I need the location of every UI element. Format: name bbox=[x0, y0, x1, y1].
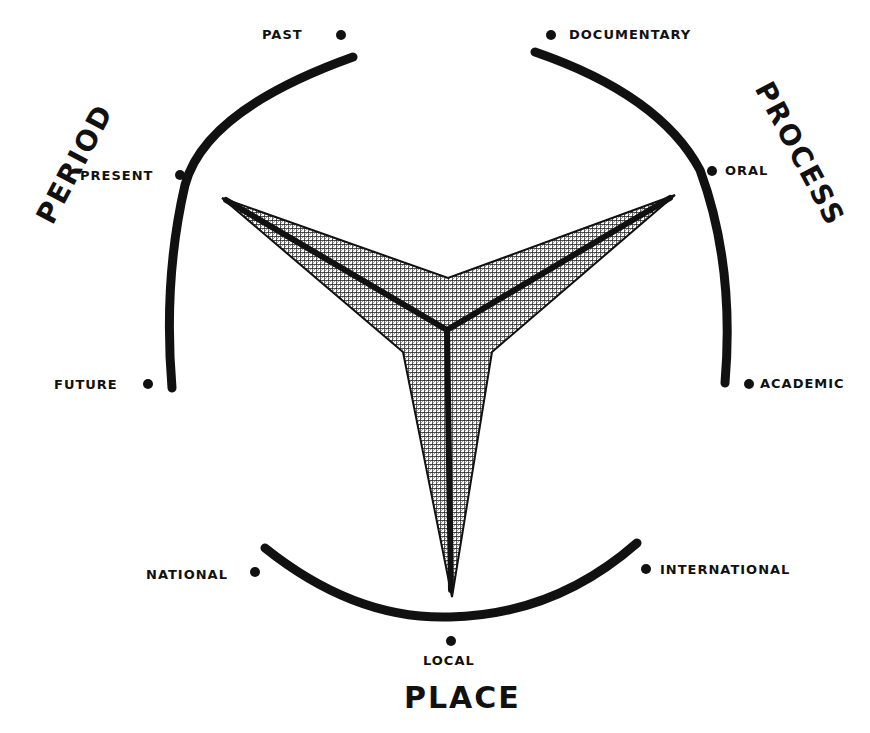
label-future: FUTURE bbox=[54, 378, 118, 391]
point-past-dot bbox=[336, 30, 346, 40]
point-documentary-dot bbox=[546, 30, 556, 40]
point-academic-dot bbox=[744, 379, 754, 389]
spoke-process bbox=[447, 198, 670, 330]
three-axis-diagram bbox=[0, 0, 870, 733]
point-oral-dot bbox=[707, 166, 717, 176]
point-international-dot bbox=[641, 564, 651, 574]
label-academic: ACADEMIC bbox=[760, 377, 845, 390]
label-local: LOCAL bbox=[423, 654, 475, 667]
label-present: PRESENT bbox=[80, 169, 153, 182]
spoke-place bbox=[447, 330, 451, 590]
point-future-dot bbox=[143, 379, 153, 389]
point-local-dot bbox=[446, 636, 456, 646]
label-international: INTERNATIONAL bbox=[660, 563, 790, 576]
label-oral: ORAL bbox=[725, 164, 768, 177]
point-national-dot bbox=[250, 567, 260, 577]
point-present-dot bbox=[175, 170, 185, 180]
label-documentary: DOCUMENTARY bbox=[569, 28, 691, 41]
place-title: PLACE bbox=[404, 683, 521, 713]
label-past: PAST bbox=[262, 28, 303, 41]
label-national: NATIONAL bbox=[146, 568, 228, 581]
